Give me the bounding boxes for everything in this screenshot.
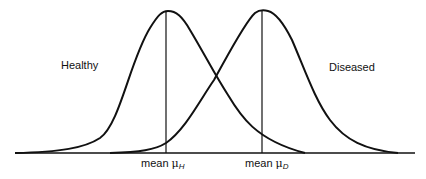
- mean-diseased-label: mean μD: [245, 157, 289, 171]
- diseased-curve: [110, 10, 398, 153]
- mean-healthy-prefix: mean: [141, 157, 169, 169]
- subscript-h: H: [179, 162, 185, 171]
- healthy-label: Healthy: [61, 59, 98, 71]
- mu-symbol: μ: [276, 157, 283, 170]
- mean-healthy-label: mean μH: [141, 157, 185, 171]
- mu-symbol: μ: [172, 157, 179, 170]
- diseased-label: Diseased: [329, 61, 375, 73]
- mean-diseased-prefix: mean: [245, 157, 273, 169]
- overlapping-distributions-diagram: Healthy Diseased mean μH mean μD: [0, 0, 426, 179]
- subscript-d: D: [283, 162, 289, 171]
- distribution-curves: [0, 0, 426, 179]
